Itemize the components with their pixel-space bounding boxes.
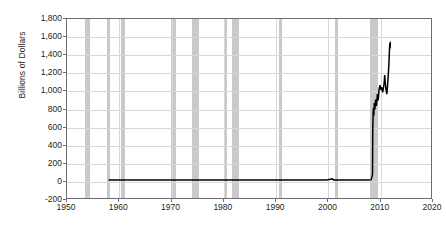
y-tick-mark [63,36,66,37]
x-tick-mark [171,199,172,202]
x-tick-label: 1960 [95,203,141,212]
y-tick-label: 1,400 [2,50,62,59]
x-tick-mark [432,199,433,202]
x-tick-mark [118,199,119,202]
y-tick-label: 1,000 [2,86,62,95]
x-tick-label: 2010 [357,203,403,212]
y-tick-mark [63,90,66,91]
x-tick-mark [380,199,381,202]
data-series-layer [67,19,431,198]
y-tick-mark [63,54,66,55]
x-tick-mark [66,199,67,202]
chart-container: Billions of Dollars 1,8001,6001,4001,200… [0,0,446,239]
y-tick-mark [63,145,66,146]
y-tick-label: 600 [2,123,62,132]
y-tick-label: 800 [2,105,62,114]
y-tick-mark [63,163,66,164]
x-tick-label: 1970 [148,203,194,212]
y-tick-label: 1,800 [2,14,62,23]
plot-area [66,18,432,199]
x-tick-label: 1990 [252,203,298,212]
y-tick-label: 1,600 [2,32,62,41]
y-tick-label: 400 [2,141,62,150]
x-tick-mark [275,199,276,202]
y-tick-mark [63,72,66,73]
series-line-excess-reserves [109,42,391,180]
y-tick-label: 200 [2,159,62,168]
y-tick-mark [63,181,66,182]
y-tick-label: 0 [2,177,62,186]
x-tick-label: 1950 [43,203,89,212]
x-tick-label: 2000 [304,203,350,212]
y-tick-label: 1,200 [2,68,62,77]
x-tick-mark [327,199,328,202]
y-tick-mark [63,127,66,128]
x-tick-label: 1980 [200,203,246,212]
x-tick-mark [223,199,224,202]
x-tick-label: 2020 [409,203,446,212]
y-tick-mark [63,109,66,110]
y-tick-mark [63,18,66,19]
x-axis-tick-labels: 19501960197019801990200020102020 [0,203,446,219]
